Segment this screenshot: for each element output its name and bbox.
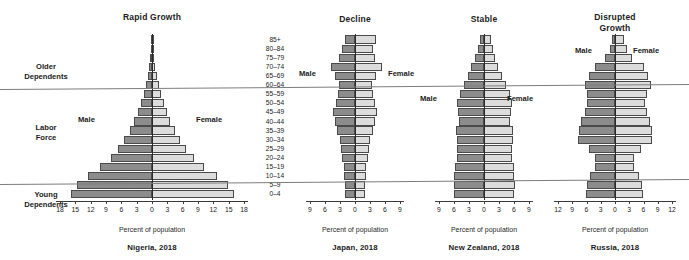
x-tick-1-11 <box>229 201 230 204</box>
bar-male-1-10 <box>130 126 152 134</box>
bar-male-3-14 <box>455 163 484 171</box>
x-tick-4-4 <box>615 201 616 204</box>
chart-title-3: Stable <box>439 14 529 25</box>
bar-female-2-4 <box>355 72 376 80</box>
x-tick-label-2-5: 6 <box>378 206 392 213</box>
x-tick-label-1-12: 18 <box>237 206 251 213</box>
category-band-label-0: Older Dependents <box>8 62 84 82</box>
bar-female-2-7 <box>355 99 375 107</box>
bar-female-3-12 <box>484 145 512 153</box>
x-tick-1-6 <box>152 201 153 204</box>
x-tick-label-2-3: 0 <box>348 206 362 213</box>
bar-male-3-2 <box>475 54 485 62</box>
female-series-label-1: Female <box>196 115 222 124</box>
bar-female-3-16 <box>484 181 515 189</box>
bar-female-2-5 <box>355 81 372 89</box>
bar-female-4-14 <box>615 163 634 171</box>
x-axis-label-4: Percent of population <box>545 226 685 233</box>
bar-male-3-17 <box>454 190 484 198</box>
bar-female-1-12 <box>152 145 186 153</box>
bar-female-4-16 <box>615 181 642 189</box>
bar-female-2-12 <box>355 145 369 153</box>
x-tick-2-4 <box>370 201 371 204</box>
x-tick-label-4-1: 9 <box>565 206 579 213</box>
x-tick-label-1-6: 0 <box>145 206 159 213</box>
bar-male-4-3 <box>595 63 615 71</box>
bar-male-1-9 <box>134 117 152 125</box>
age-group-label-3: 70–74 <box>252 63 298 70</box>
age-group-label-17: 0–4 <box>252 190 298 197</box>
x-tick-label-2-2: 3 <box>333 206 347 213</box>
bar-male-2-17 <box>345 190 355 198</box>
age-group-label-6: 55–59 <box>252 90 298 97</box>
population-pyramid-figure: Rapid GrowthNigeria, 2018Percent of popu… <box>0 0 689 260</box>
center-axis-line-2 <box>355 34 356 200</box>
x-tick-label-1-10: 12 <box>206 206 220 213</box>
age-group-label-8: 45–49 <box>252 108 298 115</box>
bar-male-2-13 <box>342 154 355 162</box>
x-tick-label-4-7: 9 <box>651 206 665 213</box>
age-group-label-2: 75–79 <box>252 54 298 61</box>
age-group-label-15: 10–14 <box>252 172 298 179</box>
x-tick-1-7 <box>167 201 168 204</box>
x-tick-label-1-4: 6 <box>114 206 128 213</box>
male-series-label-2: Male <box>299 69 316 78</box>
x-tick-4-3 <box>601 201 602 204</box>
bar-female-4-0 <box>615 35 624 43</box>
bar-female-3-4 <box>484 72 502 80</box>
female-series-label-2: Female <box>388 69 414 78</box>
x-tick-1-10 <box>213 201 214 204</box>
bar-female-1-7 <box>152 99 164 107</box>
x-tick-2-0 <box>310 201 311 204</box>
bar-female-1-14 <box>152 163 204 171</box>
x-tick-4-6 <box>644 201 645 204</box>
x-axis-label-1: Percent of population <box>82 226 222 233</box>
x-tick-label-4-5: 3 <box>622 206 636 213</box>
bar-female-1-11 <box>152 136 180 144</box>
bar-female-2-9 <box>355 117 375 125</box>
x-tick-4-1 <box>572 201 573 204</box>
age-group-label-4: 65–69 <box>252 72 298 79</box>
bar-male-2-15 <box>344 172 355 180</box>
bar-male-2-9 <box>335 117 355 125</box>
bar-male-4-11 <box>578 136 615 144</box>
bar-male-1-13 <box>111 154 152 162</box>
bar-female-3-1 <box>484 45 493 53</box>
bar-male-1-6 <box>144 90 152 98</box>
bar-female-3-13 <box>484 154 512 162</box>
bar-female-3-2 <box>484 54 495 62</box>
x-tick-label-1-3: 9 <box>99 206 113 213</box>
bar-female-1-9 <box>152 117 170 125</box>
bar-male-3-13 <box>457 154 485 162</box>
x-tick-label-2-6: 9 <box>393 206 407 213</box>
bar-male-3-7 <box>457 99 484 107</box>
bar-male-3-16 <box>454 181 485 189</box>
bar-male-3-8 <box>458 108 484 116</box>
bar-female-3-17 <box>484 190 514 198</box>
bar-female-2-11 <box>355 136 370 144</box>
category-band-label-1: Labor Force <box>8 123 84 143</box>
age-group-label-1: 80–84 <box>252 45 298 52</box>
bar-female-4-13 <box>615 154 634 162</box>
x-tick-label-1-2: 12 <box>84 206 98 213</box>
x-tick-3-6 <box>529 201 530 204</box>
bar-female-3-3 <box>484 63 498 71</box>
male-series-label-4: Male <box>575 46 592 55</box>
bar-male-4-8 <box>585 108 615 116</box>
center-axis-line-4 <box>615 34 616 200</box>
bar-female-4-9 <box>615 117 650 125</box>
center-axis-line-3 <box>484 34 485 200</box>
bar-male-1-11 <box>124 136 152 144</box>
bar-male-4-9 <box>581 117 615 125</box>
bar-female-2-15 <box>355 172 366 180</box>
bar-male-2-1 <box>342 45 355 53</box>
x-tick-1-8 <box>183 201 184 204</box>
chart-caption-3: New Zealand, 2018 <box>414 243 554 252</box>
x-tick-2-2 <box>340 201 341 204</box>
bar-female-4-3 <box>615 63 644 71</box>
bar-female-3-6 <box>484 90 510 98</box>
bar-female-4-6 <box>615 90 647 98</box>
bar-male-1-12 <box>118 145 152 153</box>
x-tick-label-1-7: 3 <box>160 206 174 213</box>
x-tick-label-3-0: 9 <box>432 206 446 213</box>
